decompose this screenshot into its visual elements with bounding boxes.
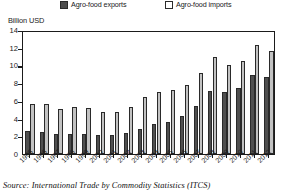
legend-item-exports: Agro-food exports [60, 1, 126, 9]
bar-group [264, 32, 273, 154]
bar-exports-2009 [222, 92, 226, 154]
y-tick-label-12: 12 [10, 45, 18, 53]
bar-group [194, 32, 203, 154]
bar-group [96, 32, 105, 154]
bar-group [152, 32, 161, 154]
bar-group [250, 32, 259, 154]
bar-group [138, 32, 147, 154]
bar-imports-2010 [241, 61, 245, 154]
bar-group [166, 32, 175, 154]
bar-group [110, 32, 119, 154]
bar-group [25, 32, 34, 154]
bar-exports-2011 [250, 75, 254, 154]
legend-label-imports: Agro-food imports [176, 1, 231, 9]
bar-imports-1995 [30, 104, 34, 154]
bar-group [124, 32, 133, 154]
bar-imports-2012 [269, 51, 273, 154]
bar-group [236, 32, 245, 154]
chart-legend: Agro-food exports Agro-food imports [0, 1, 281, 14]
bar-imports-2007 [199, 73, 203, 154]
bar-group [82, 32, 91, 154]
y-tick-label-10: 10 [10, 62, 18, 70]
bar-imports-1997 [58, 109, 62, 154]
x-axis: 1995199619971998199920002001200220032004… [22, 155, 275, 181]
legend-label-exports: Agro-food exports [71, 1, 126, 9]
source-note: Source: International Trade by Commodity… [3, 181, 279, 191]
bar-group [68, 32, 77, 154]
bar-imports-1998 [72, 107, 76, 154]
y-tick-label-14: 14 [10, 27, 18, 35]
bar-imports-2009 [227, 65, 231, 154]
y-axis-unit-label: Billion USD [8, 16, 44, 25]
bar-group [40, 32, 49, 154]
bar-imports-1999 [86, 108, 90, 154]
bar-group [180, 32, 189, 154]
bar-imports-2008 [213, 57, 217, 154]
bar-exports-2010 [236, 88, 240, 154]
bar-exports-2012 [264, 77, 268, 154]
bar-exports-2008 [208, 91, 212, 154]
bar-imports-2000 [101, 112, 105, 155]
bar-imports-2001 [115, 112, 119, 155]
bar-imports-1996 [44, 104, 48, 154]
bar-groups [23, 32, 274, 154]
legend-item-imports: Agro-food imports [165, 1, 231, 9]
bar-group [222, 32, 231, 154]
y-axis: 02468101214 [0, 31, 22, 155]
dark-square-icon [60, 1, 68, 9]
agro-food-trade-figure: Agro-food exports Agro-food imports Bill… [0, 0, 281, 193]
bar-imports-2004 [157, 92, 161, 154]
bar-group [208, 32, 217, 154]
plot-area [22, 31, 275, 155]
bar-imports-2002 [129, 107, 133, 154]
bar-imports-2003 [143, 97, 147, 154]
bar-group [54, 32, 63, 154]
bar-imports-2011 [255, 45, 259, 154]
bar-imports-2005 [171, 90, 175, 154]
light-square-icon [165, 1, 173, 9]
bar-imports-2006 [185, 85, 189, 154]
